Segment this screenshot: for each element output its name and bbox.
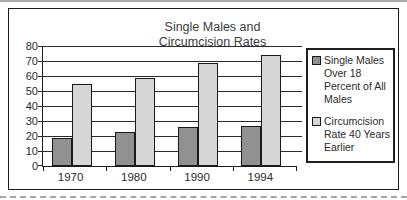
- y-axis-tick: [38, 121, 43, 122]
- x-axis-label: 1990: [175, 171, 219, 183]
- y-axis-tick: [38, 106, 43, 107]
- y-axis-tick: [38, 46, 43, 47]
- y-axis-tick: [38, 76, 43, 77]
- legend-swatch: [312, 56, 321, 65]
- x-axis-label: 1980: [112, 171, 156, 183]
- chart-title-line-1: Single Males and: [17, 20, 407, 35]
- y-axis-label: 60: [12, 70, 38, 83]
- legend-entry: Single MalesOver 18Percent of AllMales: [311, 54, 391, 106]
- legend-entry: CircumcisionRate 40 YearsEarlier: [311, 115, 391, 154]
- x-axis-label: 1994: [238, 171, 282, 183]
- y-axis-label: 40: [12, 100, 38, 113]
- y-axis-label: 80: [12, 40, 38, 53]
- legend-swatch: [312, 117, 321, 126]
- y-axis-tick: [38, 136, 43, 137]
- legend: Single MalesOver 18Percent of AllMalesCi…: [306, 48, 395, 163]
- bar-circumcision-rate: [198, 63, 218, 167]
- x-axis-tick: [106, 166, 107, 171]
- bar-single-males: [178, 127, 198, 166]
- y-axis-label: 50: [12, 85, 38, 98]
- bar-single-males: [52, 138, 72, 167]
- plot-area: [42, 46, 296, 167]
- x-axis-tick: [43, 166, 44, 171]
- y-axis-tick: [38, 151, 43, 152]
- page-divider-bottom: [0, 196, 407, 198]
- x-axis-label: 1970: [49, 171, 93, 183]
- bar-circumcision-rate: [135, 78, 155, 167]
- legend-label: Single MalesOver 18Percent of AllMales: [324, 54, 386, 106]
- y-axis-tick: [38, 91, 43, 92]
- page-divider-top: [0, 0, 407, 2]
- legend-label: CircumcisionRate 40 YearsEarlier: [324, 115, 390, 154]
- bar-circumcision-rate: [72, 84, 92, 167]
- x-axis-tick: [233, 166, 234, 171]
- x-axis-tick: [170, 166, 171, 171]
- document-page: Single Males and Circumcision Rates 8070…: [0, 0, 407, 200]
- y-axis-label: 30: [12, 115, 38, 128]
- y-axis-label: 0: [12, 160, 38, 173]
- bar-circumcision-rate: [261, 55, 281, 166]
- bar-single-males: [241, 126, 261, 167]
- y-axis-label: 70: [12, 55, 38, 68]
- x-axis-tick: [296, 166, 297, 171]
- y-axis-label: 10: [12, 145, 38, 158]
- bar-single-males: [115, 132, 135, 167]
- y-axis-tick: [38, 61, 43, 62]
- y-axis-label: 20: [12, 130, 38, 143]
- gridline: [43, 46, 302, 47]
